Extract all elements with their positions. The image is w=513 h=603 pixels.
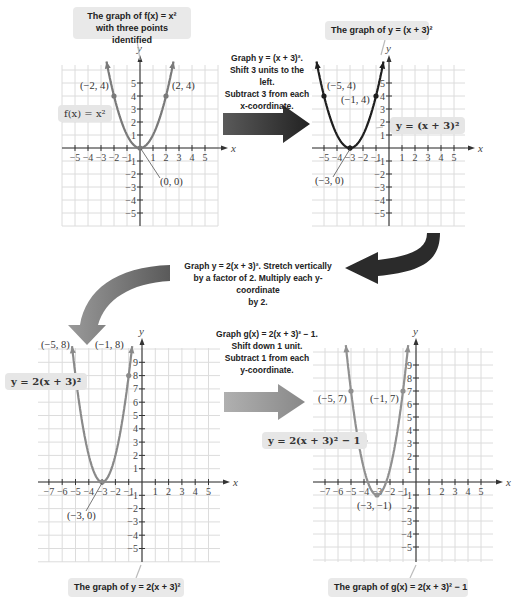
y-tick-label: 6 (133, 397, 138, 408)
y-tick-label: 2 (380, 117, 385, 128)
point-label: (−5, 4) (327, 80, 356, 91)
y-tick-label: 7 (407, 386, 412, 397)
x-tick-label: −4 (332, 152, 343, 163)
callout-line-2: with three points identified (79, 22, 185, 46)
x-tick-label: −4 (359, 486, 370, 497)
x-tick-label: 2 (413, 152, 418, 163)
y-tick-label: 4 (133, 423, 138, 434)
y-axis-label: y (385, 42, 391, 54)
x-tick-label: 1 (151, 152, 156, 163)
y-tick-label: −2 (374, 169, 385, 180)
x-tick-label: 5 (203, 152, 208, 163)
x-tick-label: 4 (466, 486, 471, 497)
step-line: Graph g(x) = 2(x + 3)² − 1. (207, 328, 327, 340)
point-label: (−1, 8) (95, 339, 124, 350)
x-tick-label: 5 (479, 486, 484, 497)
plotted-point (321, 93, 326, 98)
y-tick-label: −2 (401, 503, 412, 514)
step-2-instruction: Graph y = 2(x + 3)². Stretch vertically … (173, 260, 343, 308)
plotted-point (374, 492, 379, 497)
step-line: Shift down 1 unit. (207, 340, 327, 352)
plotted-point (400, 388, 405, 393)
x-tick-label: −5 (70, 152, 81, 163)
x-tick-label: −2 (385, 486, 396, 497)
x-tick-label: −3 (345, 152, 356, 163)
y-tick-label: −4 (401, 529, 412, 540)
curved-arrow-left-icon (345, 233, 440, 284)
step-line: Shift 3 units to the left. (222, 64, 312, 88)
y-tick-label: −1 (374, 156, 385, 167)
step-line: by 2. (173, 296, 343, 308)
equation-label-graph-4: y = 2(x + 3)² − 1 (262, 432, 367, 449)
callout-graph-3: The graph of y = 2(x + 3)² (68, 578, 184, 597)
y-tick-label: −3 (127, 516, 138, 527)
x-tick-label: −7 (44, 486, 55, 497)
arrow-right-light-icon (224, 384, 305, 420)
equation-label-graph-2: y = (x + 3)² (390, 117, 465, 134)
y-tick-label: 8 (407, 373, 412, 384)
y-tick-label: 2 (131, 117, 136, 128)
x-tick-label: −2 (110, 486, 121, 497)
y-tick-label: −5 (401, 542, 412, 553)
plotted-point (100, 479, 105, 484)
plotted-point (347, 145, 352, 150)
x-tick-label: −4 (83, 152, 94, 163)
y-tick-label: −1 (127, 490, 138, 501)
point-label: (−1, 7) (370, 393, 399, 404)
callout-graph-2: The graph of y = (x + 3)² (325, 21, 429, 40)
y-tick-label: −2 (127, 503, 138, 514)
y-tick-label: 4 (407, 425, 412, 436)
y-tick-label: 5 (131, 78, 136, 89)
step-line: x-coordinate. (222, 100, 312, 112)
curved-arrow-down-icon (68, 265, 170, 345)
equation-label-graph-3: y = 2(x + 3)² (5, 373, 87, 390)
y-tick-label: 7 (133, 383, 138, 394)
x-tick-label: −5 (319, 152, 330, 163)
x-tick-label: −2 (358, 152, 369, 163)
y-tick-label: −3 (125, 182, 136, 193)
y-tick-label: −2 (125, 169, 136, 180)
y-tick-label: −4 (374, 195, 385, 206)
callout-text: The graph of y = (x + 3)² (331, 25, 433, 35)
step-line: Subtract 3 from each (222, 88, 312, 100)
y-tick-label: −5 (374, 208, 385, 219)
step-line: Subtract 1 from each (207, 352, 327, 364)
x-axis-label: x (230, 142, 236, 154)
y-tick-label: 3 (407, 438, 412, 449)
y-tick-label: 5 (133, 410, 138, 421)
step-line: y-coordinate. (207, 364, 327, 376)
point-label: (−3, −1) (357, 500, 392, 511)
plotted-point (111, 93, 116, 98)
plotted-point (348, 388, 353, 393)
x-axis-label: x (232, 476, 238, 488)
point-label: (−5, 8) (41, 339, 70, 350)
x-tick-label: 2 (164, 152, 169, 163)
callout-line-1: The graph of f(x) = x² (79, 10, 185, 22)
step-1-instruction: Graph y = (x + 3)². Shift 3 units to the… (222, 52, 312, 112)
step-line: Graph y = (x + 3)². (222, 52, 312, 64)
x-tick-label: 5 (452, 152, 457, 163)
y-tick-label: 9 (407, 360, 412, 371)
y-tick-label: 1 (133, 463, 138, 474)
x-tick-label: −5 (70, 486, 81, 497)
x-tick-label: 2 (440, 486, 445, 497)
x-tick-label: 5 (206, 486, 211, 497)
point-label: (2, 4) (172, 80, 195, 91)
x-axis-label: x (477, 142, 483, 154)
y-tick-label: −1 (401, 490, 412, 501)
y-tick-label: 2 (407, 451, 412, 462)
x-tick-label: −3 (97, 486, 108, 497)
callout-text: The graph of g(x) = 2(x + 3)² − 1 (334, 582, 467, 592)
plotted-point (373, 93, 378, 98)
x-tick-label: 1 (153, 486, 158, 497)
y-tick-label: 3 (380, 104, 385, 115)
point-label: (−3, 0) (67, 510, 96, 521)
y-tick-label: 1 (131, 130, 136, 141)
y-tick-label: −3 (401, 516, 412, 527)
y-tick-label: −3 (374, 182, 385, 193)
x-tick-label: −6 (57, 486, 68, 497)
x-tick-label: 4 (190, 152, 195, 163)
y-tick-label: −4 (127, 530, 138, 541)
y-tick-label: 3 (133, 437, 138, 448)
graph-1: xy−5−4−3−2−112345−5−4−3−2−112345 (62, 42, 236, 226)
